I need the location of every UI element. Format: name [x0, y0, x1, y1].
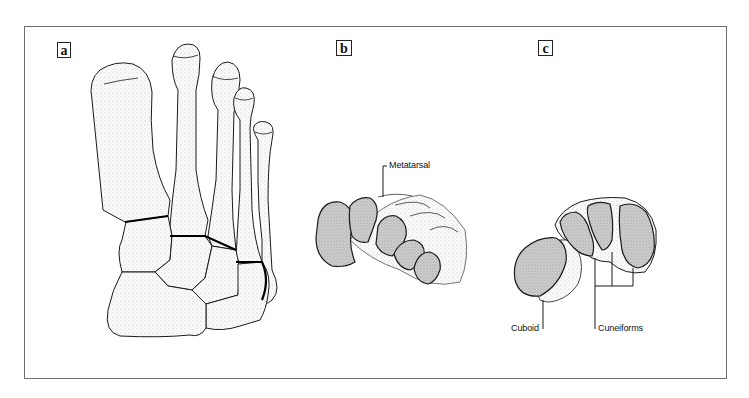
panel-b-metatarsal-section	[316, 166, 467, 284]
panel-c-tarsal-section	[514, 198, 656, 330]
label-cuboid: Cuboid	[511, 323, 539, 333]
foot-bones-illustration	[0, 0, 749, 398]
medial-cuneiform	[119, 216, 172, 272]
panel-a-foot-dorsal	[91, 44, 277, 337]
label-cuneiforms: Cuneiforms	[598, 323, 643, 333]
label-metatarsal: Metatarsal	[389, 160, 430, 170]
metatarsal-3	[208, 62, 240, 250]
metatarsal-2	[170, 44, 208, 236]
metatarsal-1	[91, 63, 170, 222]
